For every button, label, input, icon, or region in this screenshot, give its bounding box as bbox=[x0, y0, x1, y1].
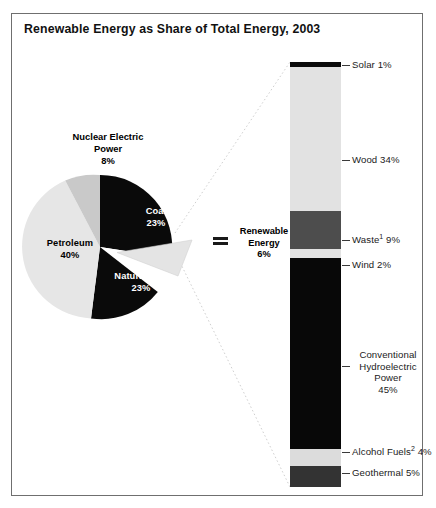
pie-label-petroleum: Petroleum 40% bbox=[27, 238, 113, 261]
bar-label-geothermal: Geothermal 5% bbox=[352, 467, 420, 479]
equals-icon-bar-top bbox=[213, 237, 228, 240]
pie-label-coal: Coal 23% bbox=[123, 206, 189, 229]
bar-label-solar: Solar 1% bbox=[352, 59, 392, 71]
bar-label-hydro-line4: 45% bbox=[378, 384, 398, 395]
pie-label-nuclear: Nuclear Electric Power 8% bbox=[38, 131, 178, 167]
bar-segment-wind bbox=[290, 249, 341, 258]
pie-label-natural-gas: Natural Gas 23% bbox=[93, 271, 189, 294]
bar-label-hydro: Conventional Hydroelectric Power 45% bbox=[352, 349, 424, 395]
callout-label-line2: Energy bbox=[248, 238, 280, 248]
leader-line-alcohol-fuels bbox=[342, 452, 350, 453]
bar-label-wood: Wood 34% bbox=[352, 154, 400, 166]
equals-icon bbox=[213, 236, 229, 248]
pie-label-natural-gas-name: Natural Gas bbox=[114, 271, 167, 281]
leader-line-hydro bbox=[342, 366, 350, 367]
pie-label-petroleum-value: 40% bbox=[61, 250, 80, 260]
bar-label-hydro-line1: Conventional bbox=[359, 349, 416, 360]
equals-icon-bar-bottom bbox=[213, 242, 228, 245]
callout-label-line1: Renewable bbox=[240, 226, 289, 236]
page-title: Renewable Energy as Share of Total Energ… bbox=[24, 22, 404, 36]
pie-label-petroleum-name: Petroleum bbox=[47, 238, 93, 248]
bar-label-hydro-line3: Power bbox=[374, 372, 402, 383]
pie-label-coal-value: 23% bbox=[147, 218, 166, 228]
bar-label-hydro-line2: Hydroelectric bbox=[359, 361, 416, 372]
callout-label-line3: 6% bbox=[257, 249, 270, 259]
pie-label-nuclear-line2: Power bbox=[94, 143, 122, 154]
bar-segment-waste bbox=[290, 211, 341, 249]
leader-line-geothermal bbox=[342, 473, 350, 474]
bar-label-alcohol-fuels: Alcohol Fuels2 4% bbox=[352, 446, 432, 458]
leader-line-wood bbox=[342, 160, 350, 161]
footnote-marker-2: 2 bbox=[411, 445, 415, 452]
leader-line-wind bbox=[342, 265, 350, 266]
stacked-bar-chart bbox=[290, 62, 341, 487]
bar-segment-wood bbox=[290, 67, 341, 211]
bar-segment-alcohol-fuels bbox=[290, 449, 341, 466]
bar-segment-hydro bbox=[290, 258, 341, 449]
leader-line-waste bbox=[342, 240, 350, 241]
bar-label-wind: Wind 2% bbox=[352, 259, 391, 271]
pie-label-coal-name: Coal bbox=[146, 206, 167, 216]
figure-root: Renewable Energy as Share of Total Energ… bbox=[0, 0, 436, 508]
pie-label-nuclear-line1: Nuclear Electric bbox=[73, 131, 144, 142]
pie-label-natural-gas-value: 23% bbox=[132, 283, 151, 293]
pie-label-nuclear-line3: 8% bbox=[101, 155, 115, 166]
bar-segment-geothermal bbox=[290, 466, 341, 487]
bar-label-waste: Waste1 9% bbox=[352, 234, 400, 246]
footnote-marker-1: 1 bbox=[379, 233, 383, 240]
leader-line-solar bbox=[342, 65, 350, 66]
